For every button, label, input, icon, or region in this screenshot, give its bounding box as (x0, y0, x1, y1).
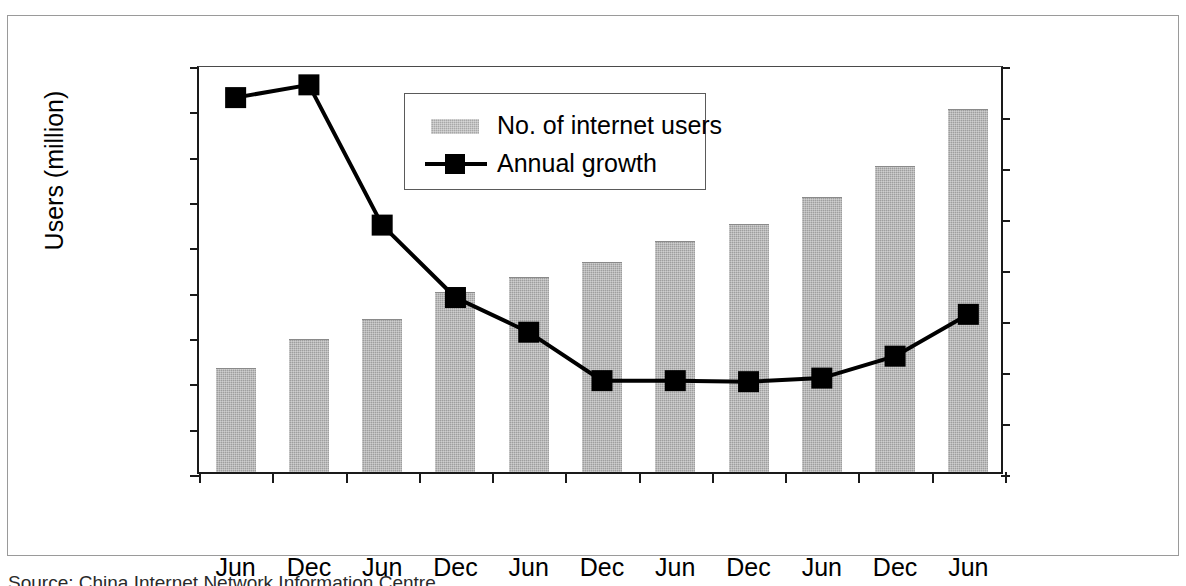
y-axis-tick (190, 112, 199, 114)
growth-line-marker (592, 370, 613, 391)
y-axis-tick (190, 339, 199, 341)
y-axis-tick (190, 203, 199, 205)
growth-line-marker (665, 370, 686, 391)
y-axis-title: Users (million) (40, 21, 69, 321)
y-axis-tick (190, 384, 199, 386)
growth-line-marker (885, 346, 906, 367)
growth-line-marker (445, 287, 466, 308)
x-axis-tick-label: Jun (913, 553, 1023, 582)
growth-line-marker (958, 304, 979, 325)
y-axis-tick (190, 248, 199, 250)
y-axis-tick (190, 158, 199, 160)
growth-line-marker (811, 368, 832, 389)
annual-growth-line (199, 67, 1005, 475)
growth-line-marker (738, 371, 759, 392)
growth-line-marker (518, 322, 539, 343)
source-caption: Source: China Internet Network Informati… (8, 572, 436, 586)
growth-line-marker (225, 87, 246, 108)
plot-area: 0204060801001201401601800102030405060708… (197, 66, 1003, 474)
x-axis-tick (1005, 472, 1007, 483)
y-axis-tick (190, 294, 199, 296)
chart-figure: Users (million) Annual growth (%) 020406… (0, 0, 1186, 586)
y-axis-tick (190, 430, 199, 432)
growth-line-marker (372, 215, 393, 236)
growth-line-path (236, 85, 969, 382)
y-axis-tick (190, 475, 199, 477)
y-axis-tick (190, 67, 199, 69)
growth-line-marker (298, 74, 319, 95)
